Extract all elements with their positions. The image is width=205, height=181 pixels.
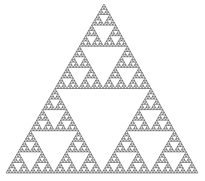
figure-background [0, 0, 205, 181]
sierpinski-triangle-figure [0, 0, 205, 181]
figure-container [0, 0, 205, 181]
